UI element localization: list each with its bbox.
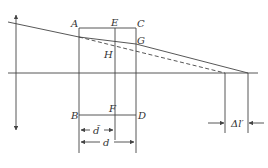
label-A: A [70,18,78,29]
solid-ray [8,22,248,73]
label-G: G [137,35,145,46]
label-D: D [137,110,146,121]
label-C: C [137,18,145,29]
optics-diagram: A E C G H B F D d̄ d Δl′ [0,0,268,168]
label-H: H [103,49,113,60]
label-delta-l-prime: Δl′ [230,118,244,129]
label-E: E [110,17,119,28]
label-F: F [108,103,117,114]
label-B: B [70,110,78,121]
label-d-bar: d̄ [93,125,101,136]
dashed-ray [79,37,225,73]
label-d: d [103,137,109,148]
